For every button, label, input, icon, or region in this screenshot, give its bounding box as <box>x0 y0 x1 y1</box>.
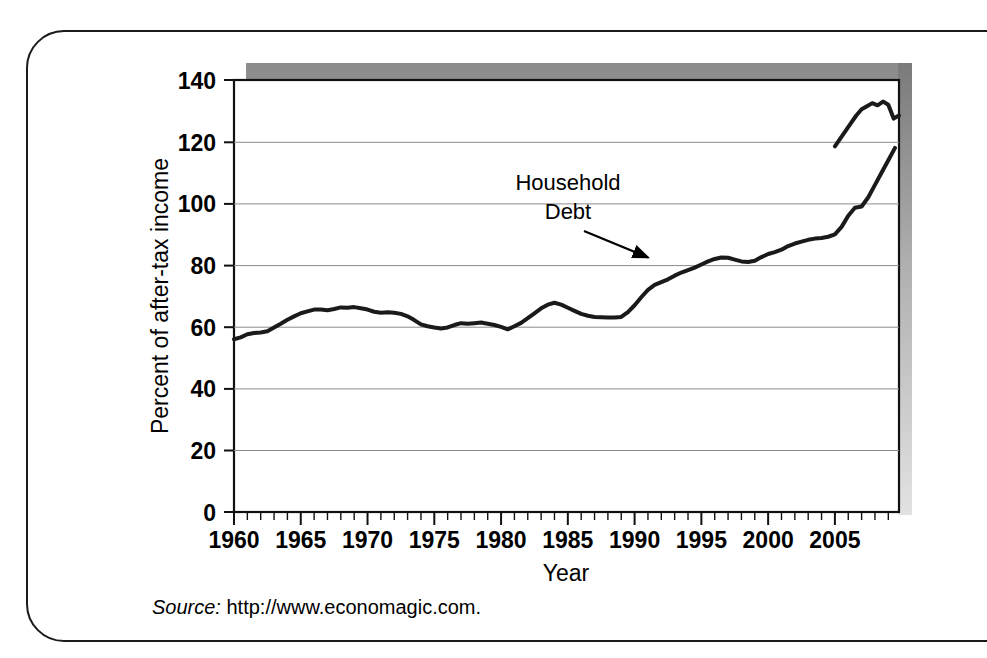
y-tick-20: 20 <box>190 438 216 464</box>
x-tick-label-1960: 1960 <box>208 527 259 553</box>
x-tick-label-1970: 1970 <box>342 527 393 553</box>
plot-area <box>234 80 899 512</box>
x-axis-title: Year <box>543 560 590 586</box>
y-axis-ticks <box>224 80 234 512</box>
x-tick-label-1965: 1965 <box>275 527 326 553</box>
x-tick-label-1995: 1995 <box>676 527 727 553</box>
y-tick-0: 0 <box>203 500 216 526</box>
x-axis-ticks <box>234 512 888 525</box>
y-axis-title: Percent of after-tax income <box>147 158 173 434</box>
x-tick-label-1980: 1980 <box>475 527 526 553</box>
y-tick-80: 80 <box>190 253 216 279</box>
x-tick-label-2005: 2005 <box>809 527 860 553</box>
annotation-label-line2: Debt <box>545 199 591 224</box>
x-axis-tick-labels: 1960196519701975198019851990199520002005 <box>208 527 860 553</box>
source-note: Source: http://www.economagic.com. <box>152 596 481 619</box>
y-tick-120: 120 <box>178 130 216 156</box>
y-tick-100: 100 <box>178 191 216 217</box>
y-tick-140: 140 <box>178 68 216 94</box>
household-debt-chart: 140 120 100 80 60 40 20 0 Percent of aft… <box>0 0 987 658</box>
x-tick-label-2000: 2000 <box>743 527 794 553</box>
y-tick-60: 60 <box>190 315 216 341</box>
source-url: http://www.economagic.com. <box>227 596 482 618</box>
y-axis-tick-labels: 140 120 100 80 60 40 20 0 <box>178 68 216 526</box>
source-label: Source: <box>152 596 221 618</box>
annotation-label-line1: Household <box>515 170 620 195</box>
x-tick-label-1975: 1975 <box>409 527 460 553</box>
x-tick-label-1985: 1985 <box>542 527 593 553</box>
x-tick-label-1990: 1990 <box>609 527 660 553</box>
y-tick-40: 40 <box>190 376 216 402</box>
chart-svg: 140 120 100 80 60 40 20 0 Percent of aft… <box>0 0 987 658</box>
